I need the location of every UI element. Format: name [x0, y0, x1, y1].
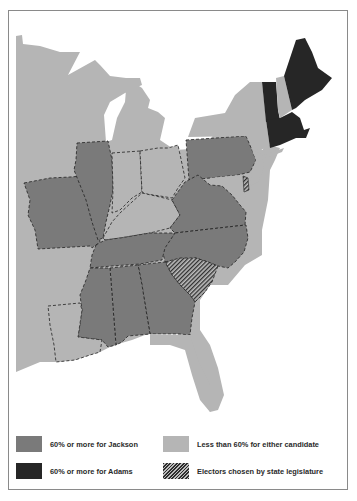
legend-item-neither: Less than 60% for either candidate	[163, 436, 319, 452]
legend-item-adams: 60% or more for Adams	[16, 463, 133, 479]
legend-label-neither: Less than 60% for either candidate	[197, 440, 319, 449]
legend-item-jackson: 60% or more for Jackson	[16, 436, 138, 452]
electoral-map	[0, 0, 357, 501]
legend-swatch-neither	[163, 436, 189, 452]
legend-swatch-jackson	[16, 436, 42, 452]
legend-label-jackson: 60% or more for Jackson	[50, 440, 138, 449]
state-delaware	[243, 176, 249, 192]
legend-item-legislature: Electors chosen by state legislature	[163, 463, 323, 479]
legend-label-legislature: Electors chosen by state legislature	[197, 467, 323, 476]
legend-label-adams: 60% or more for Adams	[50, 467, 133, 476]
state-maine	[284, 38, 332, 110]
legend-swatch-adams	[16, 463, 42, 479]
legend-swatch-legislature	[163, 463, 189, 479]
